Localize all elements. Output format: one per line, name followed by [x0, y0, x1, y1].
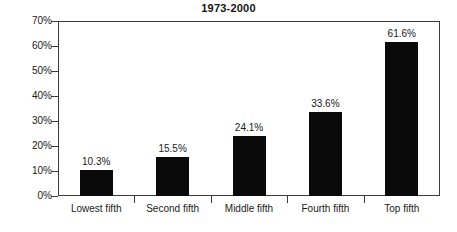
bar-value-label: 33.6% — [311, 99, 339, 109]
y-tick-mark — [51, 146, 58, 147]
bars-layer: 10.3%15.5%24.1%33.6%61.6% — [58, 21, 440, 196]
y-tick-label: 60% — [0, 41, 52, 51]
y-tick-mark — [51, 121, 58, 122]
y-tick-label: 0% — [0, 191, 52, 201]
x-axis: Lowest fifthSecond fifthMiddle fifthFour… — [58, 201, 440, 219]
y-tick-label: 10% — [0, 166, 52, 176]
y-tick-label: 50% — [0, 66, 52, 76]
y-tick-mark — [51, 21, 58, 22]
x-tick-mark — [364, 196, 365, 203]
bar — [385, 42, 418, 196]
x-tick-label: Lowest fifth — [71, 203, 122, 215]
x-tick-mark — [211, 196, 212, 203]
y-tick-mark — [51, 46, 58, 47]
bar — [233, 136, 266, 196]
x-tick-label: Second fifth — [146, 203, 199, 215]
y-tick-mark — [51, 171, 58, 172]
x-tick-label: Fourth fifth — [301, 203, 349, 215]
x-tick-label: Middle fifth — [225, 203, 273, 215]
x-tick-mark — [134, 196, 135, 203]
y-tick-mark — [51, 71, 58, 72]
bar-value-label: 24.1% — [235, 123, 263, 133]
y-tick-mark — [51, 96, 58, 97]
x-tick-mark — [287, 196, 288, 203]
y-tick-label: 40% — [0, 91, 52, 101]
bar-value-label: 10.3% — [82, 157, 110, 167]
y-tick-mark — [51, 196, 58, 197]
y-tick-label: 30% — [0, 116, 52, 126]
y-tick-label: 70% — [0, 16, 52, 26]
bar-chart: 1973-2000 0%10%20%30%40%50%60%70% 10.3%1… — [0, 0, 457, 232]
bar — [156, 157, 189, 196]
y-tick-label: 20% — [0, 141, 52, 151]
bar — [80, 170, 113, 196]
x-tick-label: Top fifth — [384, 203, 419, 215]
chart-title: 1973-2000 — [0, 2, 457, 14]
y-axis: 0%10%20%30%40%50%60%70% — [0, 21, 52, 196]
bar-value-label: 61.6% — [388, 29, 416, 39]
bar-value-label: 15.5% — [158, 144, 186, 154]
bar — [309, 112, 342, 196]
